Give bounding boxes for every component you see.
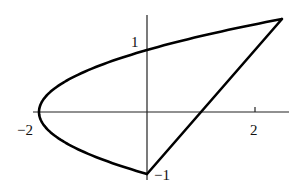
x-label-neg2: −2 [17,122,33,138]
region-diagram: −2 2 1 −1 [0,0,301,195]
y-label-neg1: −1 [154,167,170,183]
parabola-curve [39,19,282,174]
line-segment [147,19,282,174]
y-label-1: 1 [131,34,139,50]
x-label-2: 2 [250,122,258,138]
